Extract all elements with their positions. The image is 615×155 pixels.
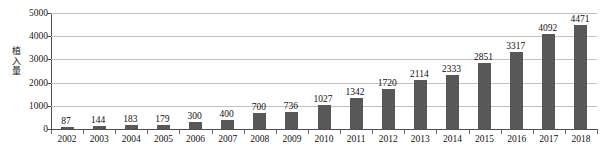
bar	[93, 126, 106, 129]
bar-value-label: 1342	[338, 87, 372, 97]
bar-value-label: 1720	[370, 78, 404, 88]
x-axis-category-label: 2006	[179, 134, 213, 144]
bar	[414, 80, 427, 129]
y-axis-tick-mark	[47, 106, 51, 107]
bar-value-label: 144	[81, 115, 115, 125]
y-axis-tick-label: 5000	[20, 8, 48, 18]
bar	[285, 112, 298, 129]
bar	[446, 75, 459, 129]
x-axis-category-label: 2004	[114, 134, 148, 144]
x-axis-category-label: 2008	[243, 134, 277, 144]
x-axis-category-label: 2007	[211, 134, 245, 144]
bar-value-label: 736	[274, 101, 308, 111]
x-axis-category-label: 2011	[339, 134, 373, 144]
bar	[478, 63, 491, 129]
y-axis-tick-mark	[47, 59, 51, 60]
bar-value-label: 2114	[402, 69, 436, 79]
y-axis-tick-label: 0	[20, 124, 48, 134]
y-axis-tick-label: 3000	[20, 54, 48, 64]
x-axis-category-label: 2009	[275, 134, 309, 144]
y-axis-tick-mark	[47, 36, 51, 37]
bar-chart: 植入量 010002000300040005000 87200214420031…	[0, 0, 615, 155]
bar-value-label: 2851	[467, 52, 501, 62]
gridline	[51, 36, 597, 37]
y-axis-tick-label: 1000	[20, 101, 48, 111]
x-axis-category-label: 2012	[371, 134, 405, 144]
y-axis-tick-mark	[47, 13, 51, 14]
y-axis-tick-labels: 010002000300040005000	[18, 0, 48, 155]
x-axis-category-label: 2002	[50, 134, 84, 144]
plot-area	[51, 13, 597, 129]
y-axis-tick-mark	[47, 83, 51, 84]
y-axis-tick-label: 2000	[20, 78, 48, 88]
x-axis-category-label: 2014	[435, 134, 469, 144]
bar-value-label: 183	[113, 114, 147, 124]
x-axis-category-label: 2003	[82, 134, 116, 144]
bar-value-label: 87	[49, 116, 83, 126]
x-axis-line	[51, 129, 598, 130]
bar	[382, 89, 395, 129]
bar-value-label: 2333	[434, 64, 468, 74]
bar	[253, 113, 266, 129]
y-axis-tick-label: 4000	[20, 31, 48, 41]
x-axis-category-label: 2018	[564, 134, 598, 144]
x-axis-category-label: 2017	[532, 134, 566, 144]
bar	[189, 122, 202, 129]
bar	[61, 127, 74, 129]
bar	[221, 120, 234, 129]
gridline	[51, 13, 597, 14]
x-axis-tick-mark	[597, 130, 598, 134]
bar	[157, 125, 170, 129]
x-axis-category-label: 2010	[307, 134, 341, 144]
bar-value-label: 3317	[499, 41, 533, 51]
bar	[574, 25, 587, 129]
bar	[350, 98, 363, 129]
x-axis-category-label: 2013	[403, 134, 437, 144]
bar	[542, 34, 555, 129]
bar-value-label: 4471	[563, 14, 597, 24]
x-axis-category-label: 2016	[500, 134, 534, 144]
x-axis-category-label: 2005	[146, 134, 180, 144]
bar	[318, 105, 331, 129]
bar-value-label: 700	[242, 102, 276, 112]
bar	[510, 52, 523, 129]
bar-value-label: 4092	[531, 23, 565, 33]
bar-value-label: 300	[178, 111, 212, 121]
bar-value-label: 400	[210, 109, 244, 119]
bar	[125, 125, 138, 129]
x-axis-tick-mark	[51, 130, 52, 134]
bar-value-label: 1027	[306, 94, 340, 104]
bar-value-label: 179	[145, 114, 179, 124]
x-axis-category-label: 2015	[468, 134, 502, 144]
